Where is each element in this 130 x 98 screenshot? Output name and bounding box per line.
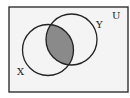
universe-label: U xyxy=(112,10,120,21)
set-x-label: X xyxy=(17,66,25,77)
set-y-label: Y xyxy=(95,19,103,30)
venn-diagram: X Y U xyxy=(0,0,130,98)
